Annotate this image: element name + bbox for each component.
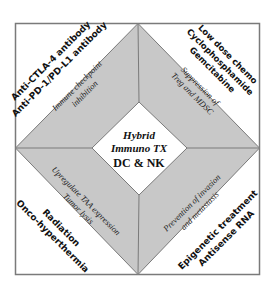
center-line-3: DC & NK <box>113 156 165 170</box>
center-line-2: Immuno TX <box>110 142 168 154</box>
center-line-1: Hybrid <box>122 129 155 141</box>
hybrid-immunotherapy-diagram: Hybrid Immuno TX DC & NK Immune checkpoi… <box>0 0 274 292</box>
